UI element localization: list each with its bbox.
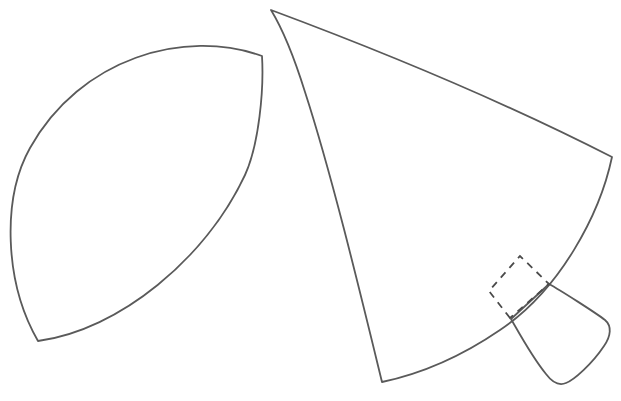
drawing-canvas [0,0,621,401]
pattern-drawing [0,0,621,401]
canvas-background [0,0,621,401]
